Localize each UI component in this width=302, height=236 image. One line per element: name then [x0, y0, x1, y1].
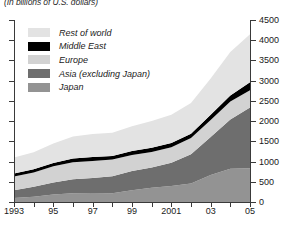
legend-swatch-icon: [28, 69, 50, 78]
x-axis-label: 97: [88, 206, 98, 216]
legend-item: Japan: [28, 80, 150, 94]
y-tick-mark: [9, 182, 14, 183]
x-tick-mark: [152, 203, 153, 207]
y-tick-mark: [251, 101, 256, 102]
y-axis-label: 1500: [259, 136, 279, 146]
y-axis-label: 4000: [259, 35, 279, 45]
x-tick-mark: [191, 203, 192, 207]
chart-legend: Rest of worldMiddle EastEuropeAsia (excl…: [28, 26, 150, 94]
chart-subtitle: (In billions of U.S. dollars): [4, 0, 98, 7]
x-axis-label: 05: [245, 206, 255, 216]
y-tick-mark: [251, 60, 256, 61]
x-axis-label: 95: [48, 206, 58, 216]
y-tick-mark: [251, 81, 256, 82]
y-axis-label: 2500: [259, 96, 279, 106]
y-tick-mark: [251, 162, 256, 163]
y-tick-mark: [251, 182, 256, 183]
y-axis-label: 3000: [259, 76, 279, 86]
legend-item: Rest of world: [28, 26, 150, 40]
y-tick-mark: [9, 60, 14, 61]
legend-item: Middle East: [28, 40, 150, 54]
y-tick-mark: [9, 101, 14, 102]
legend-label: Asia (excluding Japan): [59, 69, 150, 79]
legend-swatch-icon: [28, 83, 50, 92]
legend-swatch-icon: [28, 28, 50, 37]
legend-label: Middle East: [59, 41, 106, 51]
legend-label: Japan: [59, 82, 84, 92]
legend-item: Asia (excluding Japan): [28, 67, 150, 81]
y-tick-mark: [9, 121, 14, 122]
y-tick-mark: [251, 20, 256, 21]
legend-swatch-icon: [28, 55, 50, 64]
x-tick-mark: [73, 203, 74, 207]
x-tick-mark: [112, 203, 113, 207]
axis-right: [250, 20, 251, 203]
x-tick-mark: [230, 203, 231, 207]
x-tick-mark: [34, 203, 35, 207]
y-axis-label: 1000: [259, 157, 279, 167]
y-axis-label: 4500: [259, 15, 279, 25]
x-axis-label: 99: [127, 206, 137, 216]
y-tick-mark: [9, 40, 14, 41]
legend-swatch-icon: [28, 42, 50, 51]
axis-left: [14, 20, 15, 203]
x-axis-label: 03: [206, 206, 216, 216]
y-tick-mark: [9, 20, 14, 21]
legend-label: Europe: [59, 55, 88, 65]
y-tick-mark: [9, 162, 14, 163]
y-axis-label: 3500: [259, 55, 279, 65]
y-tick-mark: [251, 141, 256, 142]
x-axis-label: 1993: [4, 206, 24, 216]
legend-item: Europe: [28, 53, 150, 67]
y-axis-label: 500: [259, 177, 274, 187]
y-tick-mark: [251, 40, 256, 41]
y-tick-mark: [9, 81, 14, 82]
chart-container: (In billions of U.S. dollars) 0500100015…: [0, 0, 302, 236]
legend-label: Rest of world: [59, 28, 112, 38]
y-axis-label: 0: [259, 197, 264, 207]
x-axis-label: 2001: [161, 206, 181, 216]
y-tick-mark: [9, 141, 14, 142]
y-tick-mark: [251, 121, 256, 122]
y-tick-mark: [251, 202, 256, 203]
y-axis-label: 2000: [259, 116, 279, 126]
